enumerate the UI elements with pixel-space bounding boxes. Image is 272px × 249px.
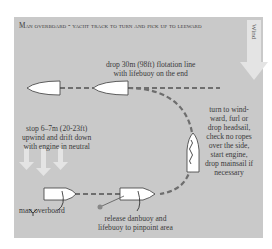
drift-arrows-icon (19, 148, 68, 176)
annotation-line: drop 30m (98ft) flotation line (106, 60, 195, 69)
annotation-line: over the side, (205, 141, 253, 150)
wind-label: Wind (250, 24, 258, 39)
annotation-line: lifebuoy to pinpoint area (98, 223, 173, 232)
annotation-line: release danbuoy and (98, 214, 173, 223)
annotation-line: drop headsail, (205, 123, 253, 132)
annotation-drop-line: drop 30m (98ft) flotation line with life… (106, 60, 195, 78)
annotation-line: stop 6–7m (20-23ft) (22, 124, 91, 133)
annotation-line: with engine in neutral (22, 142, 91, 151)
annotation-line: check no ropes (205, 132, 253, 141)
annotation-line: necessary (205, 168, 253, 177)
annotation-line: ward, furl or (205, 114, 253, 123)
annotation-line: drop mainsail if (205, 159, 253, 168)
annotation-line: turn to wind- (205, 105, 253, 114)
annotation-stop-upwind: stop 6–7m (20-23ft) upwind and drift dow… (22, 124, 91, 151)
annotation-line: upwind and drift down (22, 133, 91, 142)
annotation-turn-windward: turn to wind- ward, furl or drop headsai… (205, 105, 253, 177)
danbuoy-icon (98, 205, 103, 210)
annotation-release-danbuoy: release danbuoy and lifebuoy to pinpoint… (98, 214, 173, 232)
annotation-man-overboard: man overboard (19, 206, 65, 215)
annotation-line: with lifebuoy on the end (106, 69, 195, 78)
annotation-line: start engine, (205, 150, 253, 159)
